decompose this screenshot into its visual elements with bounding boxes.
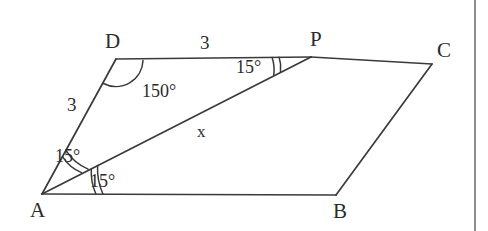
- angle-label-PAB: 15°: [90, 172, 115, 190]
- length-label-DP: 3: [200, 33, 210, 52]
- side-BA: [42, 194, 336, 195]
- side-PC: [311, 57, 432, 64]
- angle-APD-arc-inner: [279, 57, 281, 71]
- side-DP: [116, 57, 311, 59]
- page-edge: [474, 0, 476, 231]
- angle-label-APD: 15°: [236, 58, 261, 76]
- vertex-label-P: P: [310, 29, 322, 50]
- angle-label-ADP: 150°: [142, 82, 176, 100]
- vertex-label-C: C: [437, 40, 451, 61]
- angle-ADP-arc: [104, 61, 144, 87]
- diagonal-AP: [42, 57, 311, 194]
- angle-label-DAP: 15°: [55, 147, 80, 165]
- length-label-AD: 3: [67, 95, 77, 114]
- side-CB: [336, 64, 432, 195]
- length-label-AP: x: [197, 123, 206, 140]
- angle-APD-arc-outer: [272, 57, 274, 75]
- vertex-label-D: D: [105, 31, 120, 52]
- geometry-figure: A B C D P 3 3 x 150° 15° 15° 15°: [0, 0, 488, 231]
- vertex-label-B: B: [333, 201, 347, 222]
- geometry-drawing: [0, 0, 488, 231]
- vertex-label-A: A: [30, 200, 45, 221]
